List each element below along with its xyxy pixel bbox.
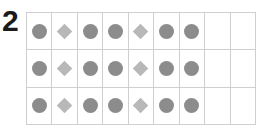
- grid-cell: [78, 88, 103, 125]
- grid-cell: [205, 50, 230, 87]
- grid-cell: [103, 88, 128, 125]
- diamond-icon: [57, 23, 73, 39]
- circle-icon: [159, 24, 174, 39]
- grid-cell: [103, 13, 128, 50]
- grid-cell: [52, 50, 77, 87]
- grid-cell: [180, 50, 205, 87]
- shape-pattern-grid: [26, 12, 256, 125]
- grid-cell: [27, 50, 52, 87]
- circle-icon: [83, 24, 98, 39]
- grid-cell: [78, 50, 103, 87]
- circle-icon: [108, 61, 123, 76]
- grid-cell: [154, 50, 179, 87]
- circle-icon: [184, 61, 199, 76]
- grid-cell: [52, 88, 77, 125]
- circle-icon: [32, 24, 47, 39]
- circle-icon: [32, 61, 47, 76]
- grid-cell: [78, 13, 103, 50]
- grid-cell: [205, 88, 230, 125]
- diamond-icon: [57, 61, 73, 77]
- grid-cell: [27, 13, 52, 50]
- diamond-icon: [133, 98, 149, 114]
- grid-cell: [52, 13, 77, 50]
- circle-icon: [184, 24, 199, 39]
- grid-cell: [154, 13, 179, 50]
- grid-cell: [231, 50, 256, 87]
- circle-icon: [159, 98, 174, 113]
- grid-cell: [180, 13, 205, 50]
- grid-cell: [231, 88, 256, 125]
- grid-cell: [103, 50, 128, 87]
- diamond-icon: [133, 61, 149, 77]
- diamond-icon: [133, 23, 149, 39]
- circle-icon: [108, 98, 123, 113]
- circle-icon: [159, 61, 174, 76]
- grid-cell: [129, 50, 154, 87]
- grid-cell: [129, 88, 154, 125]
- grid-cell: [129, 13, 154, 50]
- circle-icon: [32, 98, 47, 113]
- circle-icon: [83, 98, 98, 113]
- grid-cell: [180, 88, 205, 125]
- problem-number: 2: [2, 4, 19, 38]
- circle-icon: [83, 61, 98, 76]
- circle-icon: [108, 24, 123, 39]
- grid-cell: [231, 13, 256, 50]
- grid-cell: [205, 13, 230, 50]
- grid-cell: [27, 88, 52, 125]
- circle-icon: [184, 98, 199, 113]
- grid-cell: [154, 88, 179, 125]
- diamond-icon: [57, 98, 73, 114]
